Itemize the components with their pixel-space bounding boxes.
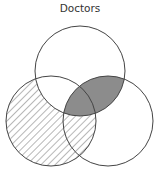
venn-diagram: [0, 0, 158, 176]
